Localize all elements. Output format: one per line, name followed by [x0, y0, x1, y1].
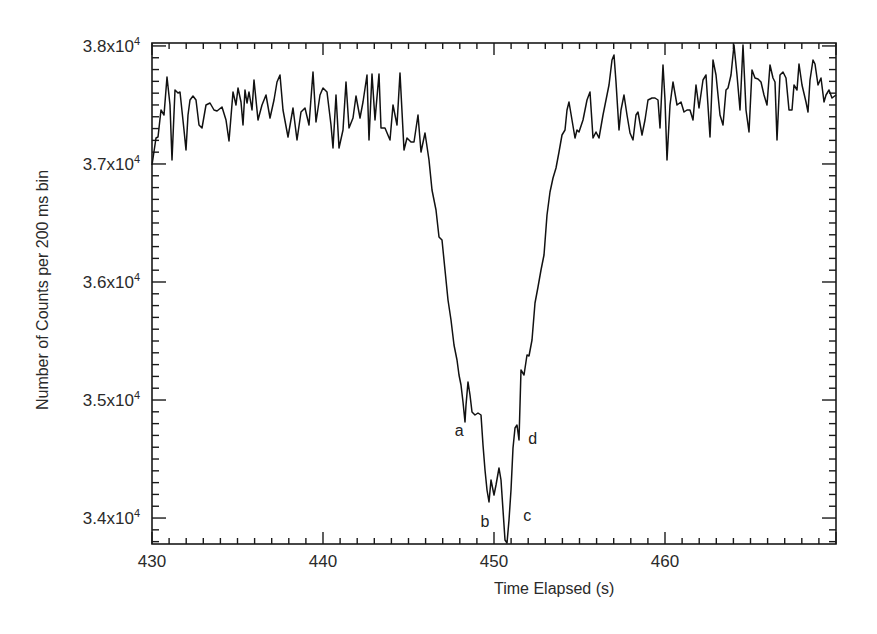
y-tick-label: 3.4x104	[30, 507, 140, 529]
y-tick-label: 3.8x104	[30, 35, 140, 57]
plot-frame	[152, 43, 836, 544]
annotation-b: b	[480, 513, 489, 531]
x-tick-label: 460	[651, 552, 679, 572]
light-curve-chart	[0, 0, 877, 634]
x-tick-label: 440	[309, 552, 337, 572]
annotation-c: c	[523, 507, 531, 525]
counts-series-line	[152, 45, 836, 543]
annotation-a: a	[455, 422, 464, 440]
x-tick-label: 430	[138, 552, 166, 572]
axis-ticks	[152, 43, 836, 544]
annotation-d: d	[528, 430, 537, 448]
x-tick-label: 450	[480, 552, 508, 572]
x-axis-title: Time Elapsed (s)	[494, 580, 614, 598]
y-axis-title: Number of Counts per 200 ms bin	[34, 170, 52, 410]
